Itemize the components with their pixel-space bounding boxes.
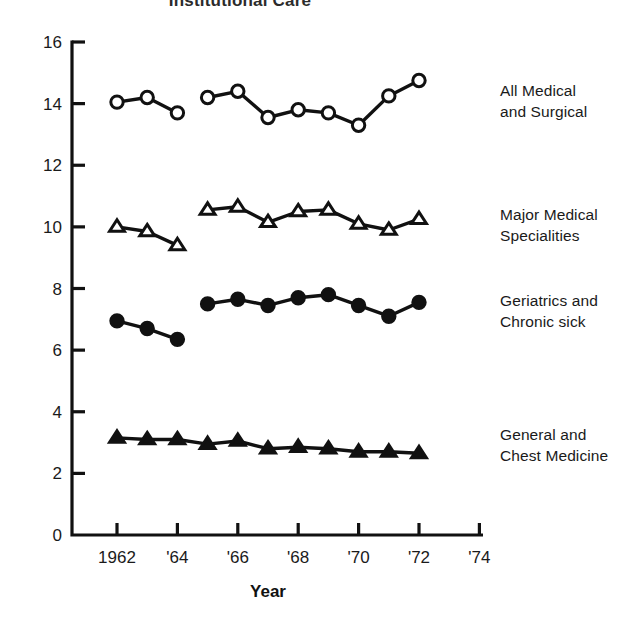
- x-tick-label: '70: [348, 548, 370, 567]
- data-point-marker: [322, 107, 334, 119]
- y-tick-label: 16: [43, 33, 62, 52]
- data-series: [111, 74, 425, 131]
- data-point-marker: [383, 310, 395, 322]
- y-tick-label: 6: [53, 341, 62, 360]
- data-point-marker: [412, 212, 427, 223]
- data-point-marker: [110, 220, 125, 231]
- data-point-marker: [140, 224, 155, 235]
- data-point-marker: [292, 292, 304, 304]
- data-point-marker: [171, 107, 183, 119]
- data-point-marker: [200, 203, 215, 214]
- y-tick-label: 8: [53, 280, 62, 299]
- y-tick-label: 14: [43, 95, 62, 114]
- x-axis-title: Year: [250, 582, 286, 601]
- data-point-marker: [381, 445, 396, 456]
- data-point-marker: [352, 119, 364, 131]
- data-point-marker: [261, 442, 276, 453]
- data-point-marker: [232, 85, 244, 97]
- data-point-marker: [110, 431, 125, 442]
- data-point-marker: [200, 437, 215, 448]
- series-label-general-and-chest-medicine: General and Chest Medicine: [500, 424, 608, 466]
- data-point-marker: [321, 442, 336, 453]
- data-point-marker: [141, 91, 153, 103]
- x-tick-label: '72: [408, 548, 430, 567]
- data-point-marker: [292, 104, 304, 116]
- series-label-major-medical-specialities: Major Medical Specialities: [500, 204, 598, 246]
- x-tick-label: '74: [468, 548, 490, 567]
- data-point-marker: [291, 204, 306, 215]
- data-point-marker: [262, 299, 274, 311]
- data-point-marker: [381, 223, 396, 234]
- data-point-marker: [140, 432, 155, 443]
- data-point-marker: [232, 293, 244, 305]
- x-tick-label: '68: [287, 548, 309, 567]
- data-point-marker: [291, 440, 306, 451]
- x-tick-label: 1962: [98, 548, 136, 567]
- data-series-group: [110, 74, 427, 457]
- data-point-marker: [351, 217, 366, 228]
- data-point-marker: [171, 333, 183, 345]
- series-label-all-medical-and-surgical: All Medical and Surgical: [500, 80, 587, 122]
- data-point-marker: [201, 91, 213, 103]
- data-point-marker: [230, 200, 245, 211]
- data-point-marker: [111, 315, 123, 327]
- data-point-marker: [352, 299, 364, 311]
- data-point-marker: [412, 446, 427, 457]
- data-point-marker: [413, 74, 425, 86]
- data-point-marker: [413, 296, 425, 308]
- data-point-marker: [383, 90, 395, 102]
- data-point-marker: [321, 203, 336, 214]
- data-point-marker: [111, 96, 123, 108]
- data-point-marker: [261, 215, 276, 226]
- data-series: [110, 200, 427, 250]
- y-tick-label: 2: [53, 464, 62, 483]
- data-point-marker: [170, 238, 185, 249]
- data-point-marker: [322, 288, 334, 300]
- x-tick-label: '66: [227, 548, 249, 567]
- x-tick-label: '64: [166, 548, 188, 567]
- data-point-marker: [351, 445, 366, 456]
- y-tick-label: 0: [53, 526, 62, 545]
- y-tick-label: 10: [43, 218, 62, 237]
- data-point-marker: [141, 322, 153, 334]
- data-series: [111, 288, 425, 345]
- y-tick-label: 4: [53, 403, 62, 422]
- data-series: [110, 431, 427, 458]
- y-tick-label: 12: [43, 156, 62, 175]
- data-point-marker: [201, 298, 213, 310]
- series-label-geriatrics-and-chronic-sick: Geriatrics and Chronic sick: [500, 290, 598, 332]
- data-point-marker: [170, 432, 185, 443]
- chart-figure: Institutional Care 02468101214161962'64'…: [0, 0, 642, 629]
- data-point-marker: [230, 434, 245, 445]
- data-point-marker: [262, 111, 274, 123]
